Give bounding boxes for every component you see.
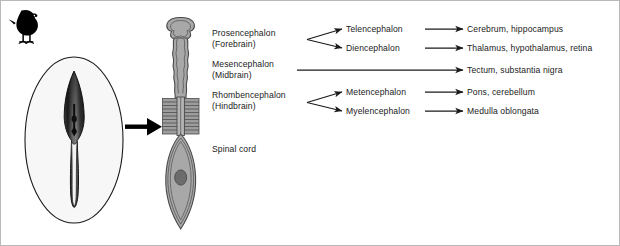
connector-rhombencephalon-to-metencephalon — [307, 92, 342, 103]
connector-prosencephalon-to-telencephalon — [307, 29, 342, 40]
region-label-prosencephalon: Prosencephalon (Forebrain) — [212, 28, 276, 49]
region-name: Mesencephalon — [212, 59, 274, 69]
derivative-label-medulla-oblongata: Medulla oblongata — [467, 106, 539, 117]
region-name: Rhombencephalon — [212, 90, 286, 100]
derivative-label-tectum-substantia-nigra: Tectum, substantia nigra — [467, 65, 563, 76]
derivative-label-cerebrum-hippocampus: Cerebrum, hippocampus — [467, 24, 563, 35]
region-label-spinal-cord: Spinal cord — [212, 144, 256, 155]
region-common-name: (Forebrain) — [212, 39, 276, 50]
region-common-name: (Midbrain) — [212, 70, 274, 81]
subdivision-label-myelencephalon: Myelencephalon — [346, 106, 410, 117]
region-label-mesencephalon: Mesencephalon (Midbrain) — [212, 59, 274, 80]
connector-prosencephalon-to-diencephalon — [307, 40, 342, 49]
region-common-name: (Hindbrain) — [212, 101, 286, 112]
embryo-to-neural-tube-arrow — [125, 118, 162, 135]
eye-vesicle — [175, 170, 187, 185]
connector-rhombencephalon-to-myelencephalon — [307, 103, 342, 112]
brain-development-figure: Prosencephalon (Forebrain) Mesencephalon… — [0, 0, 620, 246]
region-label-rhombencephalon: Rhombencephalon (Hindbrain) — [212, 90, 286, 111]
chick-silhouette-icon — [9, 10, 38, 44]
derivative-label-thalamus-hypothalamus-retina: Thalamus, hypothalamus, retina — [467, 43, 592, 54]
subdivision-label-telencephalon: Telencephalon — [346, 24, 403, 35]
derivative-label-pons-cerebellum: Pons, cerebellum — [467, 87, 535, 98]
region-name: Spinal cord — [212, 144, 256, 154]
subdivision-label-metencephalon: Metencephalon — [346, 87, 406, 98]
somites-left — [163, 99, 178, 135]
subdivision-label-diencephalon: Diencephalon — [346, 43, 400, 54]
connector-arrows — [297, 29, 463, 111]
mesencephalon-rhombencephalon-shape — [173, 38, 189, 98]
illustration-layer — [1, 1, 620, 246]
somites-right — [184, 99, 199, 135]
region-name: Prosencephalon — [212, 28, 276, 38]
neural-tube-diagram — [163, 17, 200, 229]
